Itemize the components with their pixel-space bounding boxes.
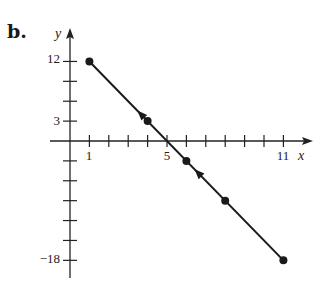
y-tick-label-12: 12 — [47, 51, 60, 66]
x-axis — [50, 135, 313, 147]
x-axis-label: x — [297, 148, 305, 163]
x-tick-label-5: 5 — [164, 148, 171, 163]
data-point — [279, 256, 287, 264]
line-chart: 1 5 11 12 3 −18 x y — [0, 0, 325, 289]
data-point — [221, 197, 229, 205]
y-axis — [63, 28, 77, 278]
y-tick-label-3: 3 — [54, 113, 61, 128]
y-axis-label: y — [53, 26, 62, 41]
data-series — [85, 57, 287, 264]
data-point — [85, 57, 93, 65]
data-point — [144, 117, 152, 125]
y-tick-label-neg18: −18 — [40, 251, 60, 266]
x-tick-label-1: 1 — [86, 148, 93, 163]
data-point — [182, 157, 190, 165]
x-tick-label-11: 11 — [277, 148, 290, 163]
